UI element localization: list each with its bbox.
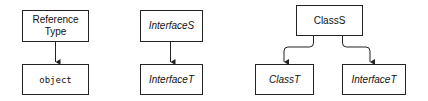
node-interface-s: InterfaceS — [141, 11, 203, 42]
node-label: InterfaceS — [149, 20, 195, 31]
node-label: object — [39, 75, 72, 85]
edge-class-s-to-class-t — [284, 36, 314, 63]
node-interface-t: InterfaceT — [141, 65, 203, 95]
node-label: ClassT — [269, 74, 301, 85]
node-label: Reference — [32, 14, 79, 25]
node-reference-type: Reference Type — [23, 11, 89, 42]
edge-class-s-to-interface-t — [343, 36, 371, 63]
node-object: object — [23, 65, 89, 95]
diagram-canvas: Reference Type object InterfaceS Interfa… — [0, 0, 428, 101]
node-label: Type — [45, 26, 67, 37]
node-interface-t-right: InterfaceT — [343, 65, 406, 95]
node-label: InterfaceT — [351, 74, 397, 85]
node-class-t: ClassT — [256, 65, 314, 95]
node-label: ClassS — [314, 15, 346, 26]
node-label: InterfaceT — [149, 74, 195, 85]
node-class-s: ClassS — [297, 6, 363, 36]
